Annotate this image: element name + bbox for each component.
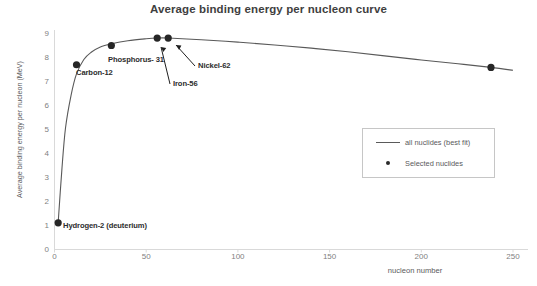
- y-tick-4: 4: [31, 149, 49, 158]
- line-swatch-icon: [376, 142, 400, 143]
- legend-item-all-nuclides[interactable]: all nuclides (best fit): [363, 135, 496, 149]
- y-tick-2: 2: [31, 197, 49, 206]
- point-label-iron-56: Iron-56: [173, 79, 198, 88]
- y-tick-5: 5: [31, 125, 49, 134]
- y-tick-9: 9: [31, 29, 49, 38]
- point-label-hydrogen-2: Hydrogen-2 (deuterium): [63, 221, 147, 230]
- legend-item-selected-nuclides[interactable]: Selected nuclides: [363, 156, 496, 170]
- chart-legend: all nuclides (best fit) Selected nuclide…: [362, 128, 495, 178]
- point-label-carbon-12: Carbon-12: [76, 68, 113, 77]
- dot-swatch-icon: [376, 161, 400, 165]
- x-tick-50: 50: [126, 252, 166, 261]
- legend-label-all-nuclides: all nuclides (best fit): [405, 138, 470, 147]
- legend-label-selected-nuclides: Selected nuclides: [405, 159, 463, 168]
- data-point-uranium-238[interactable]: [487, 64, 494, 71]
- x-tick-200: 200: [401, 252, 441, 261]
- data-point-phosphorus-31[interactable]: [108, 42, 115, 49]
- y-tick-3: 3: [31, 173, 49, 182]
- data-point-nickel-62[interactable]: [165, 34, 172, 41]
- x-tick-250: 250: [493, 252, 533, 261]
- y-tick-1: 1: [31, 221, 49, 230]
- x-tick-0: 0: [35, 252, 75, 261]
- point-label-nickel-62: Nickel-62: [198, 61, 230, 70]
- x-tick-100: 100: [218, 252, 258, 261]
- data-point-iron-56[interactable]: [154, 34, 161, 41]
- y-tick-6: 6: [31, 101, 49, 110]
- y-tick-8: 8: [31, 53, 49, 62]
- data-point-hydrogen-2-deuterium[interactable]: [55, 219, 62, 226]
- x-tick-150: 150: [310, 252, 350, 261]
- binding-energy-chart: Average binding energy per nucleon curve…: [0, 0, 537, 286]
- point-label-phosphorus-31: Phosphorus- 31: [108, 55, 164, 64]
- y-tick-7: 7: [31, 77, 49, 86]
